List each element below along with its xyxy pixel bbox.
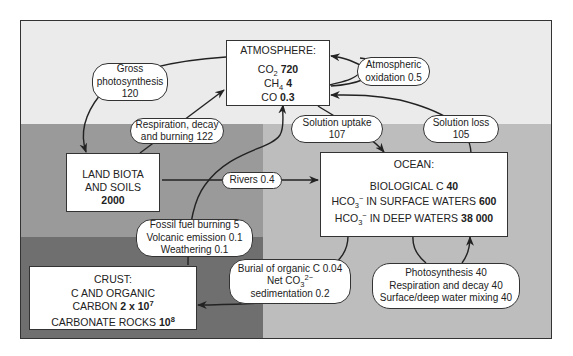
- land-label-line1: LAND BIOTA: [67, 168, 159, 181]
- ocean-deep-waters: HCO3− IN DEEP WATERS 38 000: [321, 211, 507, 226]
- flux-gross-photosynthesis: Gross photosynthesis 120: [92, 63, 168, 101]
- land-label-line2: AND SOILS: [67, 181, 159, 194]
- flux-fossil-volcanic-weathering: Fossil fuel burning 5 Volcanic emission …: [136, 219, 253, 257]
- crust-carbon: CARBON 2 x 107: [30, 300, 196, 314]
- atmosphere-co: CO 0.3: [227, 90, 329, 104]
- land-value: 2000: [67, 194, 159, 207]
- reservoir-land-biota: LAND BIOTA AND SOILS 2000: [66, 153, 160, 212]
- flux-burial-sedimentation: Burial of organic C 0.04 Net CO32− sedim…: [229, 259, 351, 304]
- flux-ocean-internal-mixing: Photosynthesis 40 Respiration and decay …: [372, 263, 520, 309]
- flux-rivers: Rivers 0.4: [222, 172, 282, 189]
- atmosphere-title: ATMOSPHERE:: [227, 43, 329, 57]
- crust-line1: C AND ORGANIC: [30, 287, 196, 301]
- flux-solution-uptake: Solution uptake 107: [291, 115, 383, 143]
- flux-atmospheric-oxidation: Atmospheric oxidation 0.5: [357, 57, 430, 86]
- atmosphere-co2: CO2 720: [227, 62, 329, 76]
- atmosphere-ch4: CH4 4: [227, 76, 329, 90]
- flux-solution-loss: Solution loss 105: [423, 115, 499, 143]
- reservoir-ocean: OCEAN: BIOLOGICAL C 40 HCO3− IN SURFACE …: [320, 152, 508, 237]
- flux-respiration-decay-burning: Respiration, decay and burning 122: [130, 118, 224, 144]
- crust-carbonate-rocks: CARBONATE ROCKS 108: [30, 316, 196, 330]
- ocean-title: OCEAN:: [321, 157, 507, 172]
- reservoir-crust: CRUST: C AND ORGANIC CARBON 2 x 107 CARB…: [29, 266, 197, 330]
- arrow-ocean-internal: [413, 236, 426, 263]
- ocean-biological: BIOLOGICAL C 40: [321, 179, 507, 194]
- crust-title: CRUST:: [30, 273, 196, 287]
- reservoir-atmosphere: ATMOSPHERE: CO2 720 CH4 4 CO 0.3: [226, 40, 330, 106]
- ocean-surface-waters: HCO3− IN SURFACE WATERS 600: [321, 194, 507, 209]
